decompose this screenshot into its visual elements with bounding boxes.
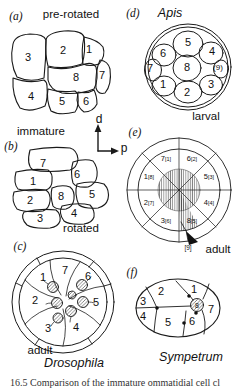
cell-number-d3: 3 — [208, 79, 214, 90]
panel-c-tag: (c) — [14, 241, 27, 253]
sector-map: [2] — [191, 156, 197, 162]
panel-e-map-art — [127, 138, 231, 245]
cell-number-f8: 8 — [195, 302, 199, 309]
sector-map: [3] — [208, 174, 214, 180]
cell-number-d4: 4 — [209, 46, 215, 57]
panel-a-title: pre-rotated — [43, 9, 99, 21]
cell-number-b5: 5 — [89, 189, 95, 200]
cell-number-f5: 5 — [165, 317, 171, 328]
cell-number-c7: 7 — [62, 265, 68, 276]
panel-b-tag: (b) — [4, 141, 17, 153]
figure-caption-partial: 16.5 Comparison of the immature ommatidi… — [10, 377, 220, 388]
cell-number-c2: 2 — [32, 295, 38, 306]
sector-map: [8] — [148, 174, 154, 180]
panel-b-title: immature — [17, 126, 65, 138]
sector-label-1: 1[8] — [144, 173, 154, 181]
sector-label-8: 8[5] — [187, 217, 197, 225]
cell-number-f2: 2 — [158, 286, 164, 297]
sector-map: [6] — [165, 218, 171, 224]
cell-number-a8: 8 — [73, 72, 79, 83]
cell-number-b3: 3 — [37, 213, 43, 224]
figure-line-art — [0, 0, 241, 388]
cell-number-d8: 8 — [184, 62, 190, 73]
cell-number-f3: 3 — [140, 296, 146, 307]
cell-number-a2: 2 — [60, 45, 66, 56]
cell-number-f1: 1 — [191, 284, 197, 295]
cell-number-a4: 4 — [28, 91, 34, 102]
cell-number-a3: 3 — [25, 52, 31, 63]
cell-number-a1: 1 — [86, 44, 92, 55]
dp-axis-compass — [95, 124, 119, 154]
sector-label-2: 2[7] — [144, 199, 154, 207]
panel-f-tag: (f) — [127, 267, 138, 279]
sector-label-3: 3[6] — [161, 217, 171, 225]
cell-number-b1: 1 — [30, 176, 36, 187]
cell-number-b8: 8 — [58, 191, 64, 202]
sector-map: [4] — [208, 200, 214, 206]
sector-label-4: 4[4] — [204, 199, 214, 207]
cell-number-f7: 7 — [208, 304, 214, 315]
arrow-right-icon — [111, 148, 119, 155]
cell-number-c6: 6 — [85, 271, 91, 282]
species-name-apis: Apis — [158, 7, 182, 20]
cell-number-d2: 2 — [184, 87, 190, 98]
cell-number-c3: 3 — [45, 323, 51, 334]
sector-label-6: 6[2] — [187, 155, 197, 163]
sector-map: [5] — [191, 218, 197, 224]
cell-number-c4: 4 — [73, 322, 79, 333]
species-name-drosophila: Drosophila — [44, 357, 104, 370]
cell-number-f4: 4 — [140, 311, 146, 322]
panel-e-state-label: adult — [206, 244, 231, 256]
cell-number-d9: (9) — [213, 64, 223, 72]
cell-number-c1: 1 — [40, 272, 46, 283]
cell-number-d6: 6 — [160, 48, 166, 59]
cell-number-a7: 7 — [99, 70, 105, 81]
cell-number-d7: 7 — [147, 63, 153, 74]
panel-a-tag: (a) — [9, 11, 22, 23]
species-name-sympetrum: Sympetrum — [159, 351, 223, 364]
panel-d-tag: (d) — [126, 8, 139, 20]
cell-number-c5: 5 — [93, 297, 99, 308]
cell-number-d1: 1 — [160, 79, 166, 90]
cell-number-d5: 5 — [185, 37, 191, 48]
sector-label-5: 5[3] — [204, 173, 214, 181]
cell-number-b4: 4 — [71, 208, 77, 219]
cell-number-a5: 5 — [59, 96, 65, 107]
panel-e-pointer-label: [9] — [184, 245, 191, 252]
axis-label-dorsal: d — [96, 113, 103, 125]
panel-b-state-label: rotated — [63, 223, 99, 235]
cell-number-b2: 2 — [27, 195, 33, 206]
sector-label-7: 7[1] — [161, 155, 171, 163]
axis-label-posterior: p — [121, 142, 128, 154]
cell-number-b6: 6 — [74, 169, 80, 180]
panel-e-tag: (e) — [129, 127, 142, 139]
sector-map: [1] — [165, 156, 171, 162]
cell-number-b7: 7 — [40, 158, 46, 169]
cell-number-a6: 6 — [83, 96, 89, 107]
panel-d-state-label: larval — [192, 111, 219, 123]
sector-map: [7] — [148, 200, 154, 206]
ommatidia-comparison-figure: (a) pre-rotated 3 2 1 8 7 4 5 6 d p imma… — [0, 0, 241, 388]
cell-number-f6: 6 — [189, 316, 195, 327]
